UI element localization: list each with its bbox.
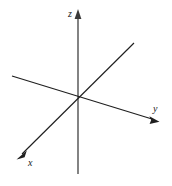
z-axis-arrowhead <box>75 9 82 19</box>
y-axis-label: y <box>152 103 158 114</box>
y-axis-arrowhead <box>149 116 159 124</box>
y-axis-line <box>12 76 152 119</box>
x-axis-label: x <box>27 157 33 168</box>
z-axis-label: z <box>67 8 72 19</box>
axes-diagram: z y x <box>0 0 172 186</box>
coordinate-axes-figure: z y x <box>0 0 172 186</box>
x-axis-arrowhead <box>17 151 27 160</box>
